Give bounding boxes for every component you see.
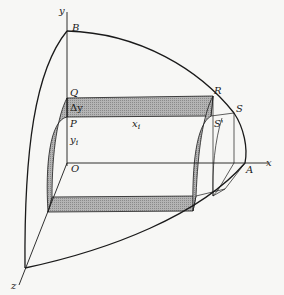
y-i-label: yi — [69, 134, 79, 147]
bottom-slab — [48, 196, 196, 212]
axes — [19, 12, 268, 285]
solid-of-revolution-diagram: y B Q Δy P xi yi O A x R S S' z — [0, 0, 284, 295]
point-B-label: B — [71, 22, 79, 33]
point-S-label: S — [236, 103, 243, 114]
left-shell-band — [47, 98, 67, 212]
y-axis-label: y — [58, 5, 65, 16]
point-R-label: R — [213, 85, 222, 96]
z-axis-label: z — [10, 280, 17, 291]
point-S-prime-label: S' — [214, 118, 224, 129]
point-A-label: A — [245, 164, 253, 175]
delta-y-label: Δy — [70, 102, 83, 113]
top-slab — [67, 96, 213, 117]
point-Q-label: Q — [70, 87, 78, 98]
point-P-label: P — [69, 118, 77, 129]
curve-B-to-z — [25, 31, 67, 268]
x-i-label: xi — [132, 118, 141, 131]
x-axis-label: x — [266, 157, 272, 168]
origin-O-label: O — [71, 163, 79, 174]
shell-slab — [47, 96, 213, 212]
z-axis — [19, 163, 67, 285]
curve-z-to-A — [25, 163, 245, 268]
